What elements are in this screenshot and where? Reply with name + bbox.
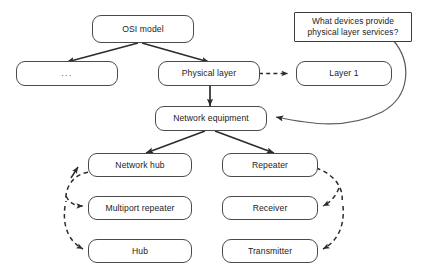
node-transmitter-label: Transmitter (248, 246, 292, 257)
edge-network-equipment-to-repeater (215, 131, 274, 153)
node-physical-layer-label: Physical layer (182, 68, 236, 79)
question-line-1: What devices provide (312, 16, 394, 27)
edge-to-receiver-dashed (323, 188, 339, 206)
node-hub-label: Hub (132, 246, 148, 257)
node-receiver-label: Receiver (253, 203, 288, 214)
edge-osi-to-ellipsis (67, 43, 138, 62)
edge-to-multiport-repeater-dashed (66, 196, 83, 206)
node-layer-1[interactable]: Layer 1 (296, 61, 392, 86)
node-transmitter[interactable]: Transmitter (222, 239, 318, 263)
node-network-equipment[interactable]: Network equipment (155, 106, 267, 131)
edge-to-hub-dashed (64, 206, 83, 249)
node-receiver[interactable]: Receiver (222, 196, 318, 220)
node-network-hub-label: Network hub (115, 160, 164, 171)
node-repeater-label: Repeater (252, 160, 288, 171)
node-multiport-repeater-label: Multiport repeater (105, 203, 174, 214)
node-repeater[interactable]: Repeater (222, 153, 318, 177)
edge-repeater-group-dashed-right (316, 168, 342, 202)
edge-network-equipment-to-network-hub (146, 131, 205, 153)
node-osi-model-label: OSI model (122, 24, 164, 35)
question-line-2: physical layer services? (308, 27, 399, 38)
edge-osi-to-physical-layer (142, 43, 209, 62)
node-layer-1-label: Layer 1 (329, 68, 358, 79)
node-hub[interactable]: Hub (88, 239, 192, 263)
edge-network-hub-dashed-arrow-up (71, 167, 78, 178)
node-ellipsis[interactable]: ... (16, 61, 118, 86)
node-multiport-repeater[interactable]: Multiport repeater (88, 196, 192, 220)
node-network-equipment-label: Network equipment (173, 113, 249, 124)
node-ellipsis-label: ... (61, 68, 73, 79)
node-physical-layer[interactable]: Physical layer (158, 61, 260, 86)
diagram-canvas: OSI model What devices provide physical … (0, 0, 424, 279)
edge-to-transmitter-dashed (323, 206, 343, 249)
node-osi-model[interactable]: OSI model (92, 15, 194, 43)
node-question-callout[interactable]: What devices provide physical layer serv… (294, 12, 412, 42)
node-network-hub[interactable]: Network hub (88, 153, 192, 177)
